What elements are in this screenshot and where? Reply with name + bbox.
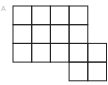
grid-cell xyxy=(50,6,69,25)
grid-cell xyxy=(69,62,88,81)
grid-cell xyxy=(32,43,51,62)
grid-cell xyxy=(13,43,32,62)
grid-cell xyxy=(32,6,51,25)
grid-cell xyxy=(32,25,51,44)
grid-cell xyxy=(13,25,32,44)
grid-cell xyxy=(69,43,88,62)
grid-cell xyxy=(88,62,107,81)
grid-cell xyxy=(88,43,107,62)
grid-cell xyxy=(69,25,88,44)
grid-cell xyxy=(50,43,69,62)
grid-cell xyxy=(50,25,69,44)
grid-cell xyxy=(13,6,32,25)
grid-diagram xyxy=(0,0,108,85)
grid-cell xyxy=(69,6,88,25)
